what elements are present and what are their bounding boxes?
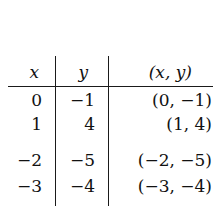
cell-x: −3: [17, 176, 42, 196]
cell-x: −2: [17, 150, 42, 170]
column-divider-2: [108, 56, 109, 206]
cell-x: 1: [31, 114, 42, 134]
cell-pair: (0, −1): [152, 90, 212, 110]
column-divider-1: [55, 56, 56, 206]
header-x: x: [29, 62, 39, 82]
cell-pair: (1, 4): [166, 114, 212, 134]
cell-pair: (−2, −5): [138, 150, 212, 170]
cell-pair: (−3, −4): [138, 176, 212, 196]
cell-y: −1: [70, 90, 95, 110]
cell-y: −4: [70, 176, 95, 196]
header-y: y: [78, 62, 88, 82]
cell-x: 0: [31, 90, 42, 110]
xy-value-table: x y (x, y) 0 −1 (0, −1) 1 4 (1, 4) −2 −5…: [0, 0, 222, 214]
cell-y: 4: [84, 114, 95, 134]
cell-y: −5: [70, 150, 95, 170]
header-pair: (x, y): [149, 62, 192, 82]
header-rule: [8, 86, 213, 87]
